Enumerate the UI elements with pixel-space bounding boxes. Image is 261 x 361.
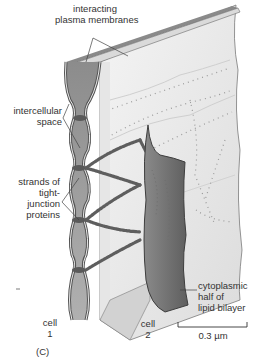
label-line: lipid bilayer: [198, 302, 248, 313]
label-line: junction: [0, 198, 60, 209]
label-interacting-plasma-membranes: interacting plasma membranes: [55, 3, 135, 25]
junction-knot: [73, 115, 87, 121]
label-line: cell: [136, 318, 160, 329]
junction-knot: [72, 165, 86, 171]
label-line: tight-: [0, 187, 60, 198]
panel-label: (C): [36, 346, 49, 357]
intercellular-space-section: [66, 62, 101, 320]
label-cell-2: cell 2: [136, 318, 160, 340]
label-line: proteins: [0, 209, 60, 220]
label-line: half of: [198, 291, 248, 302]
label-intercellular-space: intercellular space: [0, 105, 62, 127]
label-line: 1: [38, 328, 62, 339]
label-line: plasma membranes: [55, 14, 135, 25]
label-line: cell: [38, 317, 62, 328]
label-line: 2: [136, 329, 160, 340]
junction-knot: [72, 267, 86, 273]
label-line: space: [0, 116, 62, 127]
label-cytoplasmic-half: cytoplasmic half of lipid bilayer: [198, 280, 248, 313]
label-line: interacting: [55, 3, 135, 14]
label-line: cytoplasmic: [198, 280, 248, 291]
label-line: strands of: [0, 176, 60, 187]
label-line: intercellular: [0, 105, 62, 116]
label-tight-junction-strands: strands of tight- junction proteins: [0, 176, 60, 220]
scale-bar-label: 0.3 µm: [185, 330, 241, 341]
scale-bar: [178, 322, 247, 327]
label-cell-1: cell 1: [38, 317, 62, 339]
tight-junction-diagram: interacting plasma membranes intercellul…: [0, 0, 261, 361]
